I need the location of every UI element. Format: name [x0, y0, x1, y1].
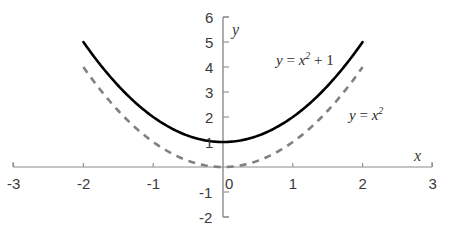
y-tick-label-5: 5 — [205, 35, 213, 50]
y-tick-label-4: 4 — [205, 60, 213, 75]
plot-area — [0, 0, 451, 239]
graph-figure: -3-2-10123 654321-1-2 y x y = x2 + 1 y =… — [0, 0, 451, 239]
x-tick-label--1: -1 — [147, 176, 160, 191]
y-tick-label-3: 3 — [205, 85, 213, 100]
y-tick-label-2: 2 — [205, 110, 213, 125]
curve-annotation-base: y = x2 — [349, 108, 383, 123]
y-tick-label-1: 1 — [205, 135, 213, 150]
y-tick-label--1: -1 — [199, 185, 212, 200]
x-tick-label--3: -3 — [7, 176, 20, 191]
y-tick-label-6: 6 — [205, 10, 213, 25]
x-tick-label-2: 2 — [359, 176, 367, 191]
curve-annotation-shifted: y = x2 + 1 — [276, 53, 334, 68]
y-tick-label--2: -2 — [199, 210, 212, 225]
x-tick-label--2: -2 — [77, 176, 90, 191]
y-axis-label: y — [232, 22, 239, 38]
x-axis-label: x — [414, 148, 421, 164]
x-tick-label-1: 1 — [289, 176, 297, 191]
x-tick-label-0: 0 — [225, 176, 233, 191]
x-tick-label-3: 3 — [428, 176, 436, 191]
